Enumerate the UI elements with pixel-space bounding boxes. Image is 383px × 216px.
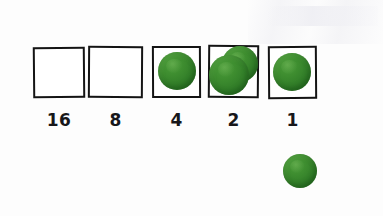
place-label-4: 4 xyxy=(152,112,201,129)
place-label-16: 16 xyxy=(33,112,85,129)
counter-in-box-1-1[interactable] xyxy=(273,53,311,91)
loose-counter-1[interactable] xyxy=(283,154,317,188)
counter-in-box-2-2[interactable] xyxy=(209,55,249,95)
counter-in-box-4-1[interactable] xyxy=(158,52,196,90)
binary-place-value-chart: 168421 xyxy=(0,0,383,216)
place-label-1: 1 xyxy=(268,112,317,129)
paper-sheen-secondary xyxy=(268,6,378,26)
place-box-16[interactable] xyxy=(33,47,85,98)
place-label-8: 8 xyxy=(88,112,143,129)
paper-sheen xyxy=(248,0,383,44)
place-label-2: 2 xyxy=(208,112,259,129)
place-box-8[interactable] xyxy=(88,46,143,98)
